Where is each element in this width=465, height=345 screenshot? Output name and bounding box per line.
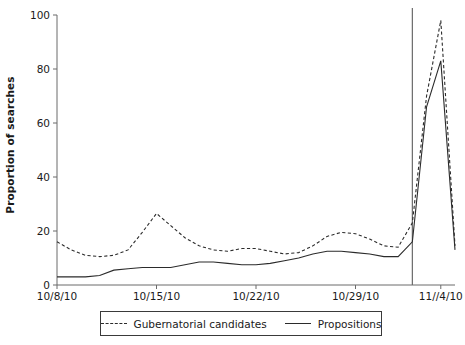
x-axis-tick-label: 10/15/10 [133,291,180,302]
axes [53,15,455,289]
legend-label: Gubernatorial candidates [134,318,267,330]
legend-swatch-solid-icon [285,323,311,324]
x-axis-tick-label: 10/29/10 [332,291,379,302]
legend-swatch-dashed-icon [101,323,127,324]
x-axis-tick-label: 10/8/10 [37,291,77,302]
y-axis-tick-marks [53,15,57,285]
chart-legend: Gubernatorial candidates Propositions [100,311,382,336]
legend-label: Propositions [318,318,382,330]
legend-item-propositions: Propositions [285,318,382,330]
legend-item-gubernatorial-candidates: Gubernatorial candidates [101,318,267,330]
chart-figure: Proportion of searches 020406080100 10/8… [0,0,465,345]
x-axis-tick-label: 10/22/10 [232,291,279,302]
x-axis-tick-label: 11//4/10 [419,291,463,302]
series-line-gubernatorial-candidates [57,20,455,256]
series-line-propositions [57,61,455,277]
x-axis-tick-labels: 10/8/1010/15/1010/22/1010/29/1011//4/10 [0,289,465,309]
